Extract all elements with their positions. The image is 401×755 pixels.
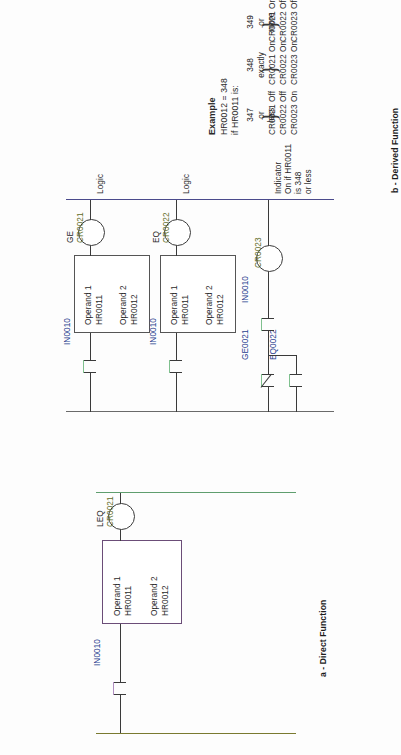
contact-in0010-b1-p[interactable] (84, 360, 96, 374)
b1-wire-mid (90, 330, 91, 361)
section-b-caption: b - Derived Function (390, 108, 400, 193)
contact-label-ge0021: GE0021 (241, 329, 251, 360)
example-line1: HR0012 = 348 (219, 78, 229, 135)
example-case-3-result-2: CR0022 Off (279, 0, 289, 42)
coil-function-label-b1-p: GE (66, 231, 76, 243)
b3-wire-to-in0010 (268, 330, 269, 356)
section-a-left-rail-portrait (96, 733, 296, 734)
b2-wire-bottom (176, 372, 177, 412)
operand1-value-b1-p: HR0011 (95, 295, 105, 325)
contact-in0010-b3[interactable] (262, 318, 274, 332)
operand1-label-a-p: Operand 1 (113, 576, 123, 616)
section-b-bus-portrait (66, 199, 334, 200)
example-line2: if HR0011 is: (230, 85, 240, 135)
operand2-value-b2-p: HR0012 (216, 294, 226, 325)
example-heading: Example (207, 97, 218, 135)
example-case-3-result-1: CR0021 On (268, 0, 278, 42)
operand1-value-a-p: HR0011 (124, 586, 134, 616)
rung3-annotation: Indicator On if HR0011 is 348 or less (274, 144, 314, 194)
example-case-3-result-3: CR0023 Off (290, 0, 300, 42)
operand1-value-b2-p: HR0011 (181, 295, 191, 325)
b1-wire-coil-upper (90, 200, 91, 220)
operand1-label-b1-p: Operand 1 (84, 285, 94, 325)
b3-join-left (268, 355, 269, 375)
a-wire-bottom (120, 694, 121, 733)
section-b-left-rail-portrait (66, 411, 334, 412)
section-a-caption-p: a - Direct Function (318, 600, 328, 677)
b2-wire-coil-upper (176, 200, 177, 220)
coil-tag-label-a-p: CR0021 (106, 496, 116, 527)
example-case-1-result-1: CR0021 Off (268, 91, 278, 135)
operand1-label-b2-p: Operand 1 (170, 285, 180, 325)
b3-wire-to-coil (268, 270, 269, 319)
coil-function-label-a-p: LEQ (96, 510, 106, 527)
contact-label-in0010-a-p: IN0010 (93, 639, 103, 666)
rung2-annotation-p: Logic (182, 174, 192, 194)
operand2-value-a-p: HR0012 (161, 585, 171, 616)
b3-join-bar (268, 355, 297, 356)
operand2-label-b1-p: Operand 2 (119, 285, 129, 325)
contact-in0010-a-p[interactable] (114, 682, 126, 696)
operand2-label-a-p: Operand 2 (150, 576, 160, 616)
contact-eq0022[interactable] (290, 374, 302, 388)
b3-branch-leg-right (296, 386, 297, 412)
b3-join-right (296, 355, 297, 375)
contact-label-in0010-b2-p: IN0010 (149, 318, 159, 345)
b1-wire-bottom (90, 372, 91, 412)
a-wire-coil-upper (120, 493, 121, 504)
a-wire-mid (120, 622, 121, 682)
b2-wire-mid (176, 330, 177, 361)
example-case-1-result-3: CR0023 On (290, 91, 300, 135)
b3-wire-coil-upper (268, 200, 269, 246)
contact-in0010-b2-p[interactable] (170, 360, 182, 374)
coil-tag-label-b2-p: CR0022 (162, 212, 172, 243)
coil-function-label-b2-p: EQ (152, 231, 162, 243)
coil-tag-label-b1-p: CR0021 (76, 212, 86, 243)
operand2-label-b2-p: Operand 2 (205, 285, 215, 325)
b3-branch-leg-left (268, 386, 269, 412)
rung1-annotation-p: Logic (96, 174, 106, 194)
example-case-2-result-1: CR0021 On (268, 41, 278, 85)
example-case-1-result-2: CR0022 Off (279, 91, 289, 135)
section-a-right-rail-portrait (96, 492, 296, 493)
contact-ge0021[interactable] (262, 374, 274, 388)
example-case-2-result-2: CR0022 On (279, 41, 289, 85)
coil-tag-label-cr0023: CR0023 (254, 237, 264, 268)
diagram-page: IN0010 Operand 1 HR0011 Operand 2 HR0012… (0, 0, 401, 755)
operand2-value-b1-p: HR0012 (130, 294, 140, 325)
example-case-2-result-3: CR0023 On (290, 41, 300, 85)
contact-label-in0010-b3: IN0010 (241, 276, 251, 303)
contact-label-in0010-b1-p: IN0010 (63, 318, 73, 345)
